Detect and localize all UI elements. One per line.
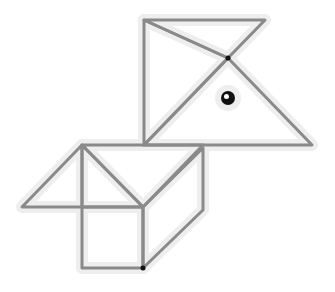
joint-dot-top	[226, 56, 231, 61]
square	[82, 207, 143, 268]
tangram-diagram	[0, 0, 335, 292]
joint-dot-bottom	[141, 266, 146, 271]
parallelogram	[143, 148, 203, 268]
left-wing-triangle	[22, 145, 82, 207]
top-band	[82, 145, 203, 207]
eye-icon	[215, 85, 241, 111]
shape-outline-layer	[22, 20, 312, 268]
